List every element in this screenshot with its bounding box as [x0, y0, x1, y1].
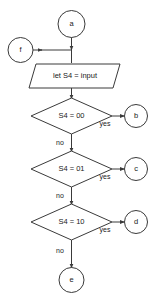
edge-label-yes-10: yes: [100, 226, 111, 234]
node-exit-c-label: c: [134, 164, 138, 173]
flowchart-canvas: a f let S4 = input S4 = 00 yes b no S4 =…: [0, 0, 152, 305]
node-process-input-label: let S4 = input: [53, 71, 98, 80]
edge-label-yes-01: yes: [100, 173, 111, 181]
node-exit-b-label: b: [134, 111, 138, 120]
edge-label-no-10: no: [56, 247, 64, 254]
edge-label-no-01: no: [56, 192, 64, 199]
node-exit-e-label: e: [69, 275, 73, 284]
node-decision-00-label: S4 = 00: [58, 111, 84, 120]
node-decision-01-label: S4 = 01: [58, 164, 84, 173]
edge-label-yes-00: yes: [100, 120, 111, 128]
node-exit-d-label: d: [134, 217, 138, 226]
flowchart-diagram: a f let S4 = input S4 = 00 yes b no S4 =…: [0, 0, 152, 305]
edge-label-no-00: no: [56, 139, 64, 146]
node-decision-10-label: S4 = 10: [58, 217, 84, 226]
